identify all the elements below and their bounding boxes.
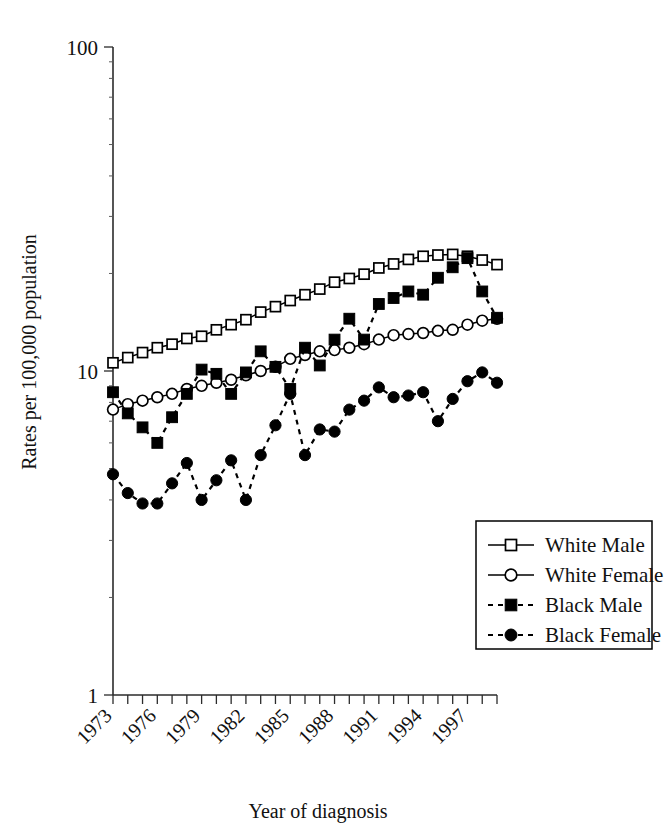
data-point: [477, 255, 487, 265]
data-point: [447, 393, 458, 404]
data-point: [255, 450, 266, 461]
data-point: [196, 364, 207, 375]
data-point: [255, 346, 266, 357]
data-point: [359, 269, 369, 279]
data-point: [447, 324, 458, 335]
data-point: [122, 408, 133, 419]
data-point: [270, 302, 280, 312]
data-point: [374, 263, 384, 273]
data-point: [388, 330, 399, 341]
series-black-female: [107, 367, 502, 509]
data-point: [344, 313, 355, 324]
data-point: [137, 498, 148, 509]
data-point: [255, 366, 266, 377]
x-tick-label: 1988: [294, 704, 338, 748]
data-point: [226, 374, 237, 385]
data-point: [108, 358, 118, 368]
data-point: [344, 342, 355, 353]
data-point: [211, 475, 222, 486]
data-point: [418, 328, 429, 339]
data-point: [433, 250, 443, 260]
data-point: [107, 469, 118, 480]
data-point: [403, 390, 414, 401]
data-point: [403, 254, 413, 264]
data-point: [477, 286, 488, 297]
data-point: [240, 494, 251, 505]
x-tick-label: 1973: [72, 704, 116, 748]
data-point: [433, 272, 444, 283]
chart-legend: White MaleWhite FemaleBlack MaleBlack Fe…: [476, 521, 663, 649]
data-point: [388, 392, 399, 403]
line-chart-canvas: 110100 197319761979198219851988199119941…: [0, 0, 670, 838]
data-point: [181, 457, 192, 468]
legend-label: Black Female: [545, 623, 661, 647]
data-point: [300, 342, 311, 353]
data-point: [329, 426, 340, 437]
y-axis-group: 110100: [67, 36, 114, 708]
data-point: [182, 333, 192, 343]
data-point: [196, 494, 207, 505]
legend-marker: [506, 540, 517, 551]
data-point: [167, 412, 178, 423]
data-point: [152, 343, 162, 353]
data-point: [388, 293, 399, 304]
chart-figure: 110100 197319761979198219851988199119941…: [0, 0, 670, 838]
data-point: [462, 376, 473, 387]
data-point: [167, 339, 177, 349]
data-point: [403, 329, 414, 340]
data-point: [329, 334, 340, 345]
data-point: [108, 387, 119, 398]
data-point: [418, 289, 429, 300]
data-point: [270, 420, 281, 431]
x-tick-label: 1982: [205, 704, 249, 748]
x-tick-label: 1985: [249, 704, 293, 748]
data-point: [226, 388, 237, 399]
data-point: [389, 259, 399, 269]
data-point: [373, 299, 384, 310]
y-tick-label: 1: [88, 684, 99, 708]
data-point: [344, 273, 354, 283]
data-point: [491, 377, 502, 388]
data-point: [226, 320, 236, 330]
data-point: [373, 382, 384, 393]
data-point: [462, 319, 473, 330]
y-axis-title: Rates per 100,000 population: [18, 234, 41, 470]
y-tick-label: 10: [77, 360, 98, 384]
data-point: [241, 315, 251, 325]
x-tick-label: 1979: [161, 704, 205, 748]
data-point: [492, 312, 503, 323]
data-point: [314, 360, 325, 371]
x-tick-marks: [113, 695, 497, 704]
legend-label: White Female: [545, 563, 663, 587]
data-point: [447, 262, 458, 273]
x-tick-labels: 197319761979198219851988199119941997: [72, 704, 470, 748]
y-tick-labels: 110100: [67, 36, 99, 708]
data-point: [418, 387, 429, 398]
data-point: [196, 380, 207, 391]
data-point: [418, 251, 428, 261]
data-point: [462, 253, 473, 264]
data-point: [181, 388, 192, 399]
data-point: [373, 334, 384, 345]
data-point: [432, 416, 443, 427]
x-axis-group: 197319761979198219851988199119941997: [72, 695, 497, 748]
x-tick-label: 1976: [116, 704, 160, 748]
data-point: [330, 277, 340, 287]
data-point: [477, 315, 488, 326]
data-point: [359, 334, 370, 345]
data-point: [299, 450, 310, 461]
data-point: [167, 388, 178, 399]
data-point: [285, 296, 295, 306]
series-white-female: [108, 313, 503, 415]
legend-marker: [505, 629, 517, 641]
data-point: [285, 353, 296, 364]
data-point: [256, 307, 266, 317]
data-point: [226, 455, 237, 466]
legend-marker: [505, 569, 517, 581]
data-point: [241, 367, 252, 378]
data-point: [285, 388, 296, 399]
data-point: [270, 361, 281, 372]
data-point: [315, 284, 325, 294]
data-point: [138, 348, 148, 358]
legend-label: White Male: [545, 533, 645, 557]
